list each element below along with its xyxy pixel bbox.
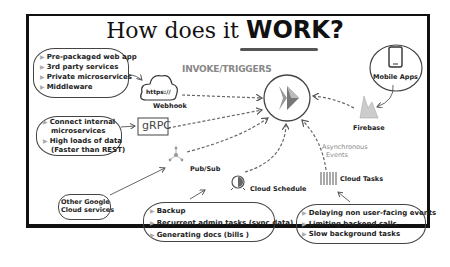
cloud-run-icon	[279, 86, 299, 110]
grpc-uses-list: ▶Connect internal microservices ▶High lo…	[43, 118, 125, 154]
list-item: ▶3rd party services	[40, 62, 137, 72]
webhook-uses-list: ▶Pre-packaged web app ▶3rd party service…	[40, 52, 137, 92]
invoke-triggers-label: INVOKE/TRIGGERS	[182, 64, 272, 74]
list-item-cont: (Faster than REST)	[43, 146, 125, 155]
list-item: ▶Limiting backend calls	[302, 219, 436, 230]
pubsub-label: Pub/Sub	[190, 165, 220, 173]
list-item: ▶Middleware	[40, 82, 137, 92]
grpc-label: gRPC	[142, 119, 171, 132]
tasks-uses-list: ▶Delaying non user-facing events ▶Limiti…	[302, 208, 436, 240]
scheduler-uses-list: ▶Backup ▶Recurrent admin tasks (sync dat…	[150, 205, 293, 241]
cloud-tasks-label: Cloud Tasks	[340, 175, 383, 183]
list-item: ▶Private microservices	[40, 72, 137, 82]
mobile-apps-label: Mobile Apps	[373, 73, 418, 81]
list-item-cont: microservices	[43, 127, 125, 136]
list-item: ▶High loads of data	[43, 137, 125, 146]
cloud-schedule-label: Cloud Schedule	[250, 185, 307, 193]
list-item: ▶Delaying non user-facing events	[302, 208, 436, 219]
tasks-icon	[321, 172, 336, 185]
webhook-label: Webhook	[153, 102, 187, 110]
firebase-icon	[360, 96, 378, 118]
list-item: ▶Backup	[150, 205, 293, 217]
list-item: ▶Generating docs (bills )	[150, 229, 293, 241]
webhook-url-text: https://	[146, 88, 171, 95]
list-item: ▶Connect internal	[43, 118, 125, 127]
firebase-label: Firebase	[353, 124, 385, 132]
pubsub-icon	[169, 147, 184, 162]
list-item: ▶Slow background tasks	[302, 229, 436, 240]
list-item: ▶Recurrent admin tasks (sync data)	[150, 217, 293, 229]
async-events-note: AsynchronousEvents	[322, 143, 368, 159]
clock-icon	[231, 176, 245, 190]
list-item: ▶Pre-packaged web app	[40, 52, 137, 62]
other-gcp-label: Other GoogleCloud services	[61, 198, 107, 214]
